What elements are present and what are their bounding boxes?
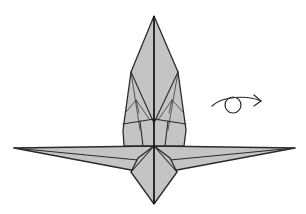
turn-over-icon [212, 95, 261, 113]
right-wing [154, 146, 295, 170]
origami-model [0, 0, 306, 214]
origami-diagram: Crane-like origami base with pointed hea… [0, 0, 306, 214]
left-wing [14, 146, 154, 170]
